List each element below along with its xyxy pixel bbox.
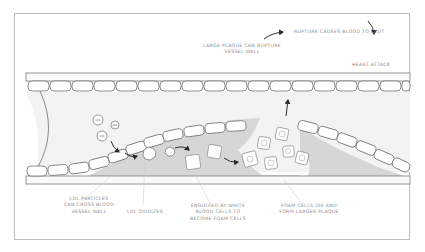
label-rupture-clot: RUPTURE CAUSES BLOOD TO CLOT [294, 29, 384, 35]
top-endothelial-cells [28, 81, 410, 91]
label-ldl-oxidizes: LDL OXIDIZES [123, 209, 167, 215]
label-engulfed: ENGULFED BY WHITE BLOOD CELLS TO BECOME … [182, 203, 254, 222]
svg-text:LDL: LDL [100, 135, 105, 138]
svg-text:LDL: LDL [113, 124, 118, 127]
label-ldl-cross: LDL PARTICLES CAN CROSS BLOOD VESSEL WAL… [58, 196, 120, 215]
top-outer-wall [26, 73, 410, 81]
svg-text:LDL: LDL [96, 119, 101, 122]
label-large-plaque: LARGE PLAQUE CAN RUPTURE VESSEL WALL [196, 43, 288, 56]
label-heart-attack: HEART ATTACK [352, 62, 390, 68]
label-foam-cells: FOAM CELLS DIE AND FORM LARGER PLAQUE [270, 203, 348, 216]
bottom-outer-wall [26, 176, 410, 184]
